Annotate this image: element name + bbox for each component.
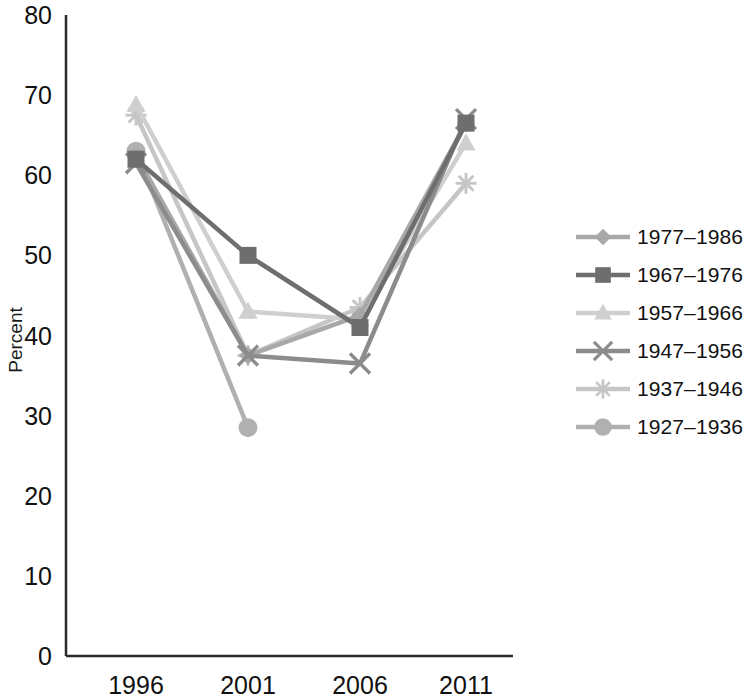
y-tick-label: 50: [24, 241, 52, 269]
data-point-square-marker: [595, 267, 611, 283]
data-point-star-marker: [456, 173, 477, 194]
y-axis-title: Percent: [5, 307, 26, 373]
y-tick-label: 70: [24, 81, 52, 109]
legend-marker-x-icon: [575, 336, 631, 366]
legend-label: 1927–1936: [631, 415, 743, 439]
legend-marker-square-icon: [575, 260, 631, 290]
data-point-diamond-marker: [595, 229, 612, 246]
legend-label: 1957–1966: [631, 301, 743, 325]
legend-item: 1967–1976: [575, 256, 741, 294]
legend-marker-star-icon: [575, 374, 631, 404]
legend-marker-diamond-icon: [575, 222, 631, 252]
y-tick-label: 60: [24, 161, 52, 189]
y-tick-label: 30: [24, 402, 52, 430]
data-point-circle-marker: [594, 418, 611, 435]
x-tick-label: 2006: [332, 671, 388, 698]
y-tick-label: 10: [24, 562, 52, 590]
legend-item: 1927–1936: [575, 408, 741, 446]
legend-marker-triangle-icon: [575, 298, 631, 328]
data-point-square-marker: [240, 247, 257, 264]
data-point-triangle-marker: [127, 95, 146, 112]
y-tick-label: 20: [24, 482, 52, 510]
y-tick-label: 40: [24, 322, 52, 350]
data-point-square-marker: [458, 115, 475, 132]
legend-label: 1967–1976: [631, 263, 743, 287]
y-axis: 01020304050607080: [24, 1, 66, 670]
legend-item: 1957–1966: [575, 294, 741, 332]
legend-marker-circle-icon: [575, 412, 631, 442]
legend-label: 1977–1986: [631, 225, 743, 249]
legend-label: 1947–1956: [631, 339, 743, 363]
legend-label: 1937–1946: [631, 377, 743, 401]
series-1967-1976: [128, 115, 475, 336]
data-point-star-marker: [593, 379, 612, 398]
y-tick-label: 80: [24, 1, 52, 29]
x-tick-label: 2011: [439, 671, 493, 698]
data-point-circle-marker: [239, 418, 258, 437]
legend-item: 1937–1946: [575, 370, 741, 408]
legend-item: 1977–1986: [575, 218, 741, 256]
y-tick-label: 0: [38, 642, 52, 670]
data-series-group: [126, 95, 477, 437]
data-point-square-marker: [352, 319, 369, 336]
x-tick-label: 1996: [108, 671, 164, 698]
x-tick-label: 2001: [220, 671, 276, 698]
x-axis: 1996200120062011: [66, 656, 513, 698]
chart-legend: 1977–19861967–19761957–19661947–19561937…: [575, 218, 741, 446]
legend-item: 1947–1956: [575, 332, 741, 370]
data-point-square-marker: [128, 151, 145, 168]
